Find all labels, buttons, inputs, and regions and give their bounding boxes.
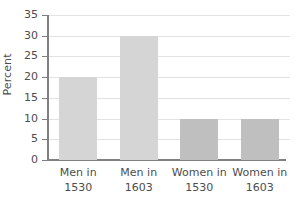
x-axis-label-line: 1603 <box>230 180 291 195</box>
y-axis-spine <box>47 15 49 161</box>
bar <box>120 36 158 160</box>
x-axis-label-line: Men in <box>48 165 109 180</box>
x-axis-label-line: 1530 <box>169 180 230 195</box>
plot-area <box>48 15 290 160</box>
bar-chart: Percent 05101520253035 Men in1530Men in1… <box>0 0 301 203</box>
y-axis-tick-label: 10 <box>0 113 38 124</box>
x-axis-tick-label: Women in1530 <box>169 165 230 195</box>
x-axis-tick-label: Women in1603 <box>230 165 291 195</box>
y-axis-tick-label: 0 <box>0 154 38 165</box>
y-axis-tick-label: 30 <box>0 30 38 41</box>
bar <box>59 77 97 160</box>
x-axis-label-line: Women in <box>230 165 291 180</box>
y-axis-tick-label: 15 <box>0 92 38 103</box>
y-axis-tick-label: 5 <box>0 133 38 144</box>
gridline <box>48 36 290 37</box>
x-axis-tick-label: Men in1603 <box>109 165 170 195</box>
gridline <box>48 56 290 57</box>
x-axis-label-line: 1603 <box>109 180 170 195</box>
x-axis-label-line: 1530 <box>48 180 109 195</box>
bar <box>241 119 279 160</box>
x-axis-tick-label: Men in1530 <box>48 165 109 195</box>
y-axis-tick-label: 25 <box>0 50 38 61</box>
x-axis-label-line: Women in <box>169 165 230 180</box>
x-axis-label-line: Men in <box>109 165 170 180</box>
bar <box>180 119 218 160</box>
gridline <box>48 15 290 16</box>
y-axis-tick-label: 35 <box>0 9 38 20</box>
y-axis-tick-label: 20 <box>0 71 38 82</box>
